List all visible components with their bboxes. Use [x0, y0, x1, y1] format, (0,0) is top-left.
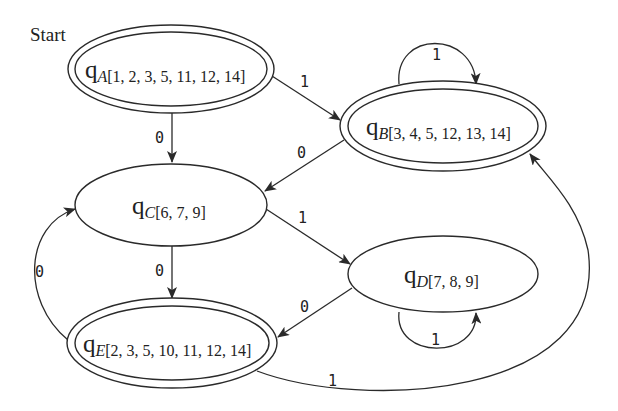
state-b-subscript-letter: B: [379, 125, 389, 142]
state-c-prefix: q: [132, 192, 145, 219]
edge-label-e-to-b: 1: [328, 372, 337, 390]
state-a: qA[1, 2, 3, 5, 11, 12, 14]: [68, 25, 274, 113]
edge-label-b-self-loop: 1: [432, 46, 441, 64]
edge-label-e-to-c: 0: [35, 263, 44, 281]
state-a-prefix: q: [85, 56, 98, 83]
state-b: qB[3, 4, 5, 12, 13, 14]: [340, 81, 546, 171]
state-c-subscript-set: [6, 7, 9]: [155, 204, 206, 221]
state-a-subscript-set: [1, 2, 3, 5, 11, 12, 14]: [107, 68, 245, 85]
state-e: qE[2, 3, 5, 10, 11, 12, 14]: [67, 298, 277, 388]
state-d: qD[7, 8, 9]: [348, 236, 538, 312]
state-b-prefix: q: [366, 113, 379, 140]
state-a-subscript-letter: A: [97, 68, 108, 85]
state-c: qC[6, 7, 9]: [75, 164, 267, 246]
start-label: Start: [30, 24, 67, 45]
state-e-prefix: q: [83, 330, 96, 357]
state-e-subscript-set: [2, 3, 5, 10, 11, 12, 14]: [105, 342, 251, 359]
state-d-subscript-letter: D: [416, 273, 429, 290]
edge-label-c-to-d: 1: [298, 209, 307, 227]
edge-label-c-to-e: 0: [155, 262, 164, 280]
state-d-subscript-set: [7, 8, 9]: [428, 273, 479, 290]
state-e-subscript-letter: E: [95, 342, 106, 359]
dfa-diagram: Start 1 0 1 0 1 0 1 0 0 1 qA[1, 2, 3, 5,…: [0, 0, 618, 411]
edge-label-a-to-b: 1: [300, 73, 309, 91]
edge-label-d-to-e: 0: [300, 298, 309, 316]
edge-label-b-to-c: 0: [297, 144, 306, 162]
state-d-prefix: q: [404, 261, 417, 288]
edge-d-to-e: [278, 288, 352, 337]
state-b-subscript-set: [3, 4, 5, 12, 13, 14]: [388, 125, 511, 142]
edge-label-a-to-c: 0: [155, 129, 164, 147]
edge-label-d-self-loop: 1: [431, 331, 440, 349]
state-c-subscript-letter: C: [145, 204, 156, 221]
edge-c-to-d: [266, 209, 350, 264]
